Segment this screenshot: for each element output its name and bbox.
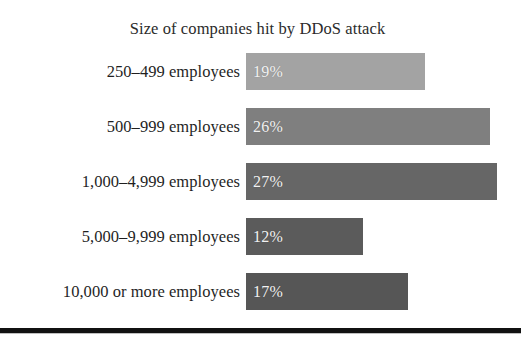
bar-track: 26% — [246, 108, 521, 145]
category-label-10000-or-more: 10,000 or more employees — [0, 273, 240, 310]
chart-plot-area: 250–499 employees 19% 500–999 employees … — [0, 53, 521, 318]
chart-title: Size of companies hit by DDoS attack — [0, 19, 521, 39]
bar-10000-or-more[interactable]: 17% — [246, 273, 408, 310]
category-label-1000-4999: 1,000–4,999 employees — [0, 163, 240, 200]
chart-title-text: Size of companies hit by DDoS attack — [130, 19, 386, 39]
bar-track: 17% — [246, 273, 521, 310]
bar-track: 19% — [246, 53, 521, 90]
bar-value-10000-or-more: 17% — [253, 273, 283, 310]
bar-row: 10,000 or more employees 17% — [0, 273, 521, 310]
ddos-company-size-bar-chart: Size of companies hit by DDoS attack 250… — [0, 0, 521, 345]
bar-value-250-499: 19% — [253, 53, 283, 90]
bar-row: 1,000–4,999 employees 27% — [0, 163, 521, 200]
bar-row: 5,000–9,999 employees 12% — [0, 218, 521, 255]
bar-500-999[interactable]: 26% — [246, 108, 490, 145]
category-label-500-999: 500–999 employees — [0, 108, 240, 145]
bar-value-1000-4999: 27% — [253, 163, 283, 200]
bar-250-499[interactable]: 19% — [246, 53, 425, 90]
bar-5000-9999[interactable]: 12% — [246, 218, 363, 255]
bar-value-5000-9999: 12% — [253, 218, 283, 255]
category-label-250-499: 250–499 employees — [0, 53, 240, 90]
bar-row: 500–999 employees 26% — [0, 108, 521, 145]
bar-1000-4999[interactable]: 27% — [246, 163, 497, 200]
bar-value-500-999: 26% — [253, 108, 283, 145]
bar-track: 27% — [246, 163, 521, 200]
bar-track: 12% — [246, 218, 521, 255]
bottom-divider-shadow — [0, 333, 521, 334]
category-label-5000-9999: 5,000–9,999 employees — [0, 218, 240, 255]
bar-row: 250–499 employees 19% — [0, 53, 521, 90]
